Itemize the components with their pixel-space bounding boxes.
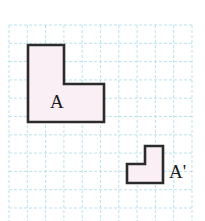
shape-a-prime-label: A' xyxy=(169,161,186,182)
geometry-figure: AA' xyxy=(0,0,205,221)
figure-canvas: AA' xyxy=(0,0,205,221)
shape-a-label: A xyxy=(50,91,64,112)
